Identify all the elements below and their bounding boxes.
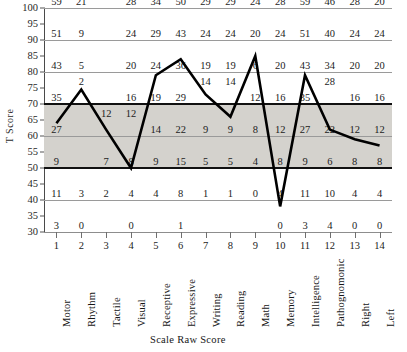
raw-score-cell: 21: [68, 0, 94, 8]
column-number: 5: [146, 241, 166, 252]
category-label-math: Math: [260, 304, 271, 327]
x-tick-mark: [330, 232, 331, 238]
column-number: 8: [220, 241, 240, 252]
raw-score-cell: 29: [217, 0, 243, 8]
column-number: 9: [245, 241, 265, 252]
column-number: 11: [295, 241, 315, 252]
x-tick-mark: [156, 232, 157, 238]
column-number: 7: [196, 241, 216, 252]
raw-score-cell: 28: [342, 0, 368, 8]
category-label-receptive: Receptive: [161, 283, 172, 327]
x-tick-mark: [305, 232, 306, 238]
x-tick-mark: [355, 232, 356, 238]
x-tick-mark: [255, 232, 256, 238]
raw-score-cell: 59: [43, 0, 69, 8]
y-tick-label: 45: [14, 179, 38, 190]
raw-score-cell: 24: [242, 0, 268, 8]
category-label-expressive: Expressive: [186, 279, 197, 327]
column-number: 3: [96, 241, 116, 252]
category-label-memory: Memory: [285, 290, 296, 327]
x-axis-label: Scale Raw Score: [150, 334, 226, 345]
column-number: 1: [46, 241, 66, 252]
x-tick-mark: [181, 232, 182, 238]
category-label-tactile: Tactile: [111, 297, 122, 327]
x-tick-mark: [230, 232, 231, 238]
category-label-pathognomonic: Pathognomonic: [335, 258, 346, 327]
y-tick-label: 95: [14, 19, 38, 30]
category-label-rhythm: Rhythm: [86, 292, 97, 327]
y-tick-label: 90: [14, 35, 38, 46]
raw-score-cell: 29: [193, 0, 219, 8]
category-label-motor: Motor: [61, 300, 72, 327]
category-label-writing: Writing: [211, 293, 222, 327]
y-tick-label: 35: [14, 211, 38, 222]
y-tick-label: 80: [14, 67, 38, 78]
plot-area: 5921283450292924285946282051924294324242…: [44, 8, 392, 232]
x-axis-tick-group: [44, 232, 392, 239]
profile-line: [56, 56, 379, 206]
raw-score-cell: 34: [143, 0, 169, 8]
x-tick-mark: [56, 232, 57, 238]
column-number: 2: [71, 241, 91, 252]
category-label-reading: Reading: [235, 291, 246, 327]
raw-score-cell: 59: [292, 0, 318, 8]
y-tick-label: 100: [14, 3, 38, 14]
raw-score-cell: 28: [118, 0, 144, 8]
x-tick-mark: [280, 232, 281, 238]
y-tick-label: 40: [14, 195, 38, 206]
profile-line-chart: [44, 8, 392, 232]
category-label-visual: Visual: [136, 299, 147, 327]
y-tick-label: 85: [14, 51, 38, 62]
column-number: 13: [345, 241, 365, 252]
raw-score-cell: 28: [267, 0, 293, 8]
raw-score-cell: 46: [317, 0, 343, 8]
x-tick-mark: [206, 232, 207, 238]
chart-container: T Score 1009590858075706560555045403530 …: [0, 0, 407, 352]
raw-score-cell: 50: [168, 0, 194, 8]
category-label-intelligence: Intelligence: [310, 275, 321, 327]
x-tick-mark: [81, 232, 82, 238]
category-label-left: Left: [385, 309, 396, 327]
category-label-right: Right: [360, 303, 371, 327]
x-tick-mark: [380, 232, 381, 238]
column-number: 6: [171, 241, 191, 252]
y-tick-label: 70: [14, 99, 38, 110]
y-tick-label: 50: [14, 163, 38, 174]
y-tick-label: 75: [14, 83, 38, 94]
column-number: 4: [121, 241, 141, 252]
raw-score-cell: 20: [367, 0, 393, 8]
y-tick-label: 30: [14, 227, 38, 238]
column-number: 12: [320, 241, 340, 252]
y-tick-label: 55: [14, 147, 38, 158]
y-tick-label: 60: [14, 131, 38, 142]
column-number: 14: [370, 241, 390, 252]
x-tick-mark: [106, 232, 107, 238]
column-number: 10: [270, 241, 290, 252]
y-tick-label: 65: [14, 115, 38, 126]
x-tick-mark: [131, 232, 132, 238]
